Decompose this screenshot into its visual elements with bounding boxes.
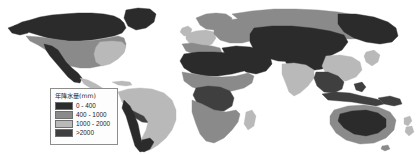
legend-swatch-class-2	[55, 111, 73, 119]
legend-swatch-class-4	[55, 129, 73, 137]
legend-title: 年降水量(mm)	[55, 92, 113, 100]
legend-item: 0 - 400	[55, 101, 113, 110]
legend-item: 400 - 1000	[55, 110, 113, 119]
legend-swatch-class-1	[55, 102, 73, 110]
legend-label-class-3: 1000 - 2000	[76, 120, 110, 127]
legend-label-class-4: >2000	[76, 129, 94, 136]
world-precipitation-figure: 年降水量(mm) 0 - 400 400 - 1000 1000 - 2000 …	[0, 0, 420, 155]
map-legend: 年降水量(mm) 0 - 400 400 - 1000 1000 - 2000 …	[50, 88, 118, 145]
legend-label-class-2: 400 - 1000	[76, 111, 107, 118]
legend-swatch-class-3	[55, 120, 73, 128]
legend-item: >2000	[55, 128, 113, 137]
legend-item: 1000 - 2000	[55, 119, 113, 128]
legend-label-class-1: 0 - 400	[76, 102, 96, 109]
